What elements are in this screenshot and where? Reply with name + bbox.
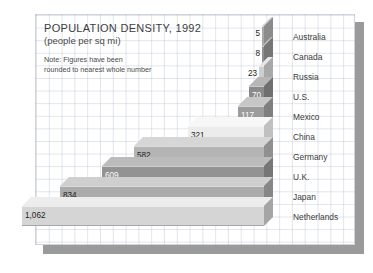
bar-netherlands[interactable] (22, 206, 264, 226)
category-label-germany: Germany (293, 152, 327, 162)
bar-value-label: 23 (245, 69, 257, 78)
bar-value-label: 8 (248, 49, 260, 58)
category-label-russia: Russia (293, 72, 319, 82)
category-label-japan: Japan (293, 192, 316, 202)
bar-australia[interactable] (262, 26, 264, 46)
bar-value-label: 1,062 (25, 211, 46, 220)
bar-front-face (22, 206, 264, 226)
bar-front-face (262, 26, 264, 46)
category-label-u-s: U.S. (293, 92, 309, 102)
bar-top-face (22, 197, 273, 206)
category-label-australia: Australia (293, 32, 326, 42)
bar-top-face (60, 177, 273, 186)
chart-container: POPULATION DENSITY, 1992 (people per sq … (0, 0, 373, 273)
category-label-mexico: Mexico (293, 112, 320, 122)
category-label-u-k: U.K. (293, 172, 309, 182)
category-label-netherlands: Netherlands (293, 212, 338, 222)
category-label-canada: Canada (293, 52, 322, 62)
bar-top-face (134, 137, 273, 146)
bar-top-face (102, 157, 273, 166)
bar-top-face (188, 117, 273, 126)
bars-layer: 5Australia8Canada23Russia70U.S.117Mexico… (0, 0, 373, 273)
category-label-china: China (293, 132, 315, 142)
bar-value-label: 5 (248, 29, 260, 38)
